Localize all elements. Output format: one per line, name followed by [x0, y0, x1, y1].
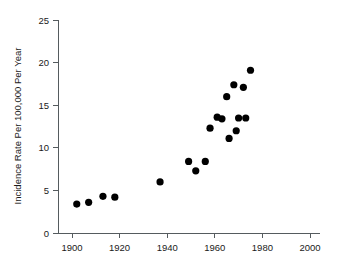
x-tick-label-1980: 1980	[252, 242, 273, 253]
y-tick-label-20: 20	[38, 57, 49, 68]
x-tick-label-1960: 1960	[204, 242, 225, 253]
data-point-18	[247, 67, 254, 74]
data-point-12	[225, 135, 232, 142]
y-axis-ticks	[53, 20, 58, 233]
data-point-14	[233, 127, 240, 134]
x-axis-ticks	[72, 233, 310, 238]
data-point-15	[235, 114, 242, 121]
data-point-10	[218, 115, 225, 122]
x-tick-label-1940: 1940	[157, 242, 178, 253]
chart-figure: 190019201940196019802000 0510152025 Inci…	[0, 0, 340, 268]
data-point-1	[85, 199, 92, 206]
data-point-13	[230, 81, 237, 88]
y-tick-label-0: 0	[44, 228, 49, 239]
scatter-plot-svg: 190019201940196019802000 0510152025 Inci…	[0, 0, 340, 268]
data-point-11	[223, 93, 230, 100]
data-point-4	[156, 178, 163, 185]
data-point-16	[240, 84, 247, 91]
y-tick-label-25: 25	[38, 15, 49, 26]
y-tick-label-5: 5	[44, 185, 49, 196]
data-point-8	[206, 125, 213, 132]
data-point-17	[242, 114, 249, 121]
x-axis-tick-labels: 190019201940196019802000	[61, 242, 320, 253]
data-point-0	[73, 200, 80, 207]
data-point-6	[192, 167, 199, 174]
y-axis-tick-labels: 0510152025	[38, 15, 49, 239]
x-tick-label-2000: 2000	[299, 242, 320, 253]
data-points	[73, 67, 254, 208]
x-tick-label-1920: 1920	[109, 242, 130, 253]
data-point-5	[185, 158, 192, 165]
y-tick-label-10: 10	[38, 142, 49, 153]
y-tick-label-15: 15	[38, 100, 49, 111]
data-point-3	[111, 194, 118, 201]
data-point-2	[99, 193, 106, 200]
data-point-7	[202, 158, 209, 165]
axes	[58, 20, 320, 233]
x-tick-label-1900: 1900	[61, 242, 82, 253]
y-axis-title: Incidence Rate Per 100,000 Per Year	[12, 48, 23, 205]
